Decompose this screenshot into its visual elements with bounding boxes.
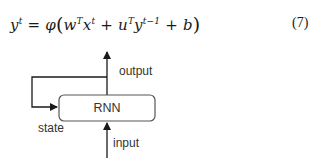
rnn-node-label: RNN	[93, 101, 120, 115]
state-label: state	[38, 121, 64, 135]
output-label: output	[119, 64, 153, 78]
input-label: input	[113, 136, 140, 150]
rnn-diagram: RNN output state input	[0, 0, 318, 164]
